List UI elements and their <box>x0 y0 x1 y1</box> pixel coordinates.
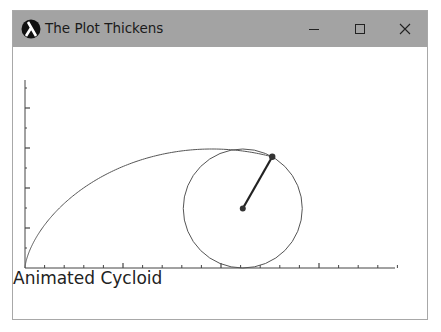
cycloid-curve <box>25 149 272 268</box>
spoke-line <box>243 157 272 209</box>
plot-caption: Animated Cycloid <box>13 268 162 288</box>
tracing-point <box>269 154 275 160</box>
center-point <box>240 206 246 212</box>
